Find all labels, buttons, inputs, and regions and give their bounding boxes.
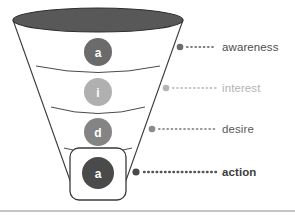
- leader-interest: [163, 85, 216, 92]
- leader-action: [132, 168, 216, 175]
- stage-circle-interest[interactable]: i: [84, 78, 112, 106]
- interest-circle-letter: i: [96, 86, 99, 100]
- stage-label-desire: desire: [222, 124, 254, 136]
- funnel-mouth-ellipse: [13, 8, 183, 32]
- stage-label-awareness: awareness: [222, 42, 279, 54]
- interest-marker-dot: [163, 85, 170, 92]
- leader-awareness: [177, 44, 216, 51]
- awareness-marker-dot: [177, 44, 184, 51]
- stage-circle-desire[interactable]: d: [84, 118, 112, 146]
- desire-circle-letter: d: [94, 126, 101, 140]
- action-circle-letter: a: [95, 167, 102, 181]
- awareness-circle-letter: a: [95, 46, 102, 60]
- stage-label-action: action: [222, 167, 256, 179]
- desire-marker-dot: [149, 126, 156, 133]
- leader-desire: [149, 126, 216, 133]
- stage-label-interest: interest: [222, 83, 261, 95]
- stage-circle-awareness[interactable]: a: [84, 38, 112, 66]
- funnel-diagram-canvas: a i d a: [0, 0, 295, 218]
- action-marker-dot: [132, 168, 139, 175]
- stage-circle-action[interactable]: a: [82, 157, 114, 189]
- funnel-figure: a i d a: [0, 0, 295, 218]
